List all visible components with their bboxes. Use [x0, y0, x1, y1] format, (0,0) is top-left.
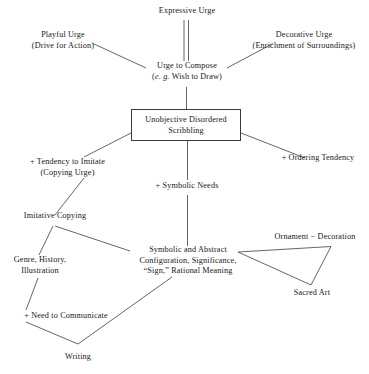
node-imitative-copying: Imitative Copying [8, 211, 102, 222]
node-unobjective-scribbling-line1: Unobjective Disordered [145, 114, 227, 125]
node-playful-urge: Playful Urge (Drive for Action) [8, 30, 118, 51]
node-symbolic-and-abstract: Symbolic and Abstract Configuration, Sig… [113, 245, 263, 277]
node-symbolic-needs: + Symbolic Needs [141, 181, 233, 192]
node-urge-to-compose-rest: Wish to Draw [170, 72, 219, 81]
node-decorative-urge-line1: Decorative Urge [240, 30, 368, 41]
node-decorative-urge: Decorative Urge (Enrichment of Surroundi… [240, 30, 368, 51]
connector-scribbling-to-tendency-imitate [84, 133, 131, 157]
connector-tendency-imitate-to-imitative-copying [55, 178, 84, 215]
node-urge-to-compose-eg: e. g. [155, 72, 170, 81]
connector-imitative-copying-to-genre-history [39, 226, 53, 255]
node-writing: Writing [51, 352, 105, 363]
node-genre-history-line1: Genre, History, [2, 255, 78, 266]
node-expressive-urge-line1: Expressive Urge [141, 6, 233, 17]
node-ordering-tendency-line1: + Ordering Tendency [270, 153, 366, 164]
node-symbolic-needs-line1: + Symbolic Needs [141, 181, 233, 192]
node-genre-history-line2: Illustration [2, 266, 78, 277]
connector-genre-history-to-need-communicate [26, 278, 38, 310]
node-playful-urge-line2: (Drive for Action) [8, 41, 118, 52]
node-genre-history-illustration: Genre, History, Illustration [2, 255, 78, 276]
node-symbolic-abstract-line3: “Sign,” Rational Meaning [113, 266, 263, 277]
node-sacred-art-line1: Sacred Art [284, 288, 340, 299]
diagram-canvas: Expressive Urge Playful Urge (Drive for … [0, 0, 369, 374]
node-urge-to-compose-paren-close: ) [219, 72, 222, 81]
connector-ornament-to-sacred-art [311, 247, 331, 286]
node-playful-urge-line1: Playful Urge [8, 30, 118, 41]
node-need-to-communicate: + Need to Communicate [9, 311, 123, 322]
node-unobjective-scribbling-line2: Scribbling [168, 125, 204, 136]
node-tendency-to-imitate: + Tendency to Imitate (Copying Urge) [10, 157, 125, 178]
node-urge-to-compose-line2: (e. g. Wish to Draw) [133, 72, 241, 83]
node-ordering-tendency: + Ordering Tendency [270, 153, 366, 164]
node-symbolic-abstract-line1: Symbolic and Abstract [113, 245, 263, 256]
node-symbolic-abstract-line2: Configuration, Significance, [113, 256, 263, 267]
node-sacred-art: Sacred Art [284, 288, 340, 299]
node-unobjective-disordered-scribbling: Unobjective Disordered Scribbling [131, 109, 241, 141]
node-need-to-communicate-line1: + Need to Communicate [9, 311, 123, 322]
node-expressive-urge: Expressive Urge [141, 6, 233, 17]
connector-need-communicate-to-writing [26, 322, 78, 344]
node-writing-line1: Writing [51, 352, 105, 363]
node-ornament-decoration: Ornament − Decoration [263, 232, 367, 243]
node-decorative-urge-line2: (Enrichment of Surroundings) [240, 41, 368, 52]
node-urge-to-compose: Urge to Compose (e. g. Wish to Draw) [133, 61, 241, 82]
node-urge-to-compose-line1: Urge to Compose [133, 61, 241, 72]
node-imitative-copying-line1: Imitative Copying [8, 211, 102, 222]
node-tendency-to-imitate-line1: + Tendency to Imitate [10, 157, 125, 168]
node-tendency-to-imitate-line2: (Copying Urge) [10, 168, 125, 179]
node-ornament-decoration-line1: Ornament − Decoration [263, 232, 367, 243]
